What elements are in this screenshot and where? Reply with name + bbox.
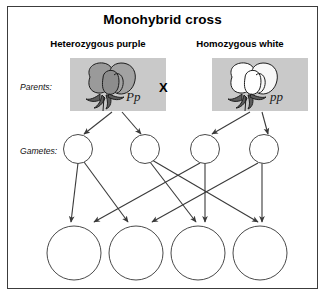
gamete-circle-2[interactable] xyxy=(131,135,160,164)
offspring-circle-2[interactable] xyxy=(109,226,163,280)
gamete-circles xyxy=(64,135,279,164)
arrows-gametes-to-offspring xyxy=(71,160,262,222)
gamete-circle-4[interactable] xyxy=(250,135,279,164)
offspring-circle-3[interactable] xyxy=(171,226,225,280)
offspring-circle-4[interactable] xyxy=(233,226,287,280)
gamete-circle-1[interactable] xyxy=(64,135,93,164)
monohybrid-cross-figure: Monohybrid cross Heterozygous purple Hom… xyxy=(0,0,325,297)
offspring-circle-1[interactable] xyxy=(47,226,101,280)
arrows-parents-to-gametes xyxy=(84,112,268,134)
gamete-circle-3[interactable] xyxy=(191,135,220,164)
cross-diagram-vectors xyxy=(0,0,325,297)
offspring-circles xyxy=(47,226,287,280)
